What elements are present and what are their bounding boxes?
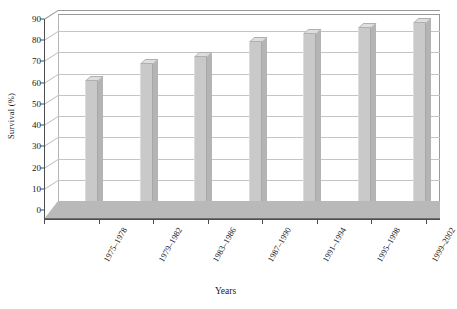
x-axis-tick-label: 1979–1982 xyxy=(157,226,183,263)
bar-side-face xyxy=(426,19,431,210)
bar-front-face xyxy=(140,64,153,210)
y-axis-line xyxy=(44,19,45,219)
bar-front-face xyxy=(85,81,98,210)
x-axis-tick-label: 1991–1994 xyxy=(321,226,347,263)
gridline-connector xyxy=(44,116,59,126)
x-axis-tick-mark xyxy=(208,219,209,224)
gridline-connector xyxy=(44,74,59,84)
x-axis-tick-mark xyxy=(99,219,100,224)
bar-front-face xyxy=(358,28,371,211)
bar-side-face xyxy=(98,76,103,210)
plot-floor xyxy=(44,201,440,219)
gridline-connector xyxy=(44,180,59,190)
bar-front-face xyxy=(413,23,426,210)
bar xyxy=(413,23,426,210)
x-axis-tick-marks xyxy=(44,219,440,225)
plot-area xyxy=(44,14,440,219)
bar xyxy=(358,28,371,211)
x-axis-tick-mark xyxy=(371,219,372,224)
x-axis-tick-label: 1983–1986 xyxy=(212,226,238,263)
gridline-connector xyxy=(44,137,59,147)
bar-side-face xyxy=(262,38,267,210)
gridline-connector xyxy=(44,95,59,105)
gridline-connector xyxy=(44,31,59,41)
bar-front-face xyxy=(249,42,262,210)
bar-front-face xyxy=(303,34,316,210)
x-axis-tick-label: 1999–2002 xyxy=(430,226,456,263)
bar xyxy=(194,57,207,210)
gridline-connector xyxy=(44,159,59,169)
y-axis-tick-labels: 0102030405060708090 xyxy=(22,14,44,219)
x-axis-tick-label: 1975–1978 xyxy=(102,226,128,263)
bar xyxy=(140,64,153,210)
x-axis-tick-labels: 1975–19781979–19821983–19861987–19901991… xyxy=(44,226,440,282)
gridline xyxy=(58,31,440,32)
x-axis-tick-mark xyxy=(317,219,318,224)
bar-side-face xyxy=(316,29,321,210)
x-axis-tick-label: 1987–1990 xyxy=(266,226,292,263)
x-axis-tick-mark xyxy=(426,219,427,224)
bar xyxy=(85,81,98,210)
x-axis-tick-mark xyxy=(262,219,263,224)
x-axis-title: Years xyxy=(0,286,451,296)
bar xyxy=(303,34,316,210)
bar-side-face xyxy=(207,53,212,210)
x-axis-tick-mark xyxy=(44,219,45,224)
bar xyxy=(249,42,262,210)
x-axis-tick-label: 1995–1998 xyxy=(375,226,401,263)
y-axis-title-text: Survival (%) xyxy=(6,93,16,139)
gridline-connector xyxy=(44,10,59,20)
gridline-connector xyxy=(44,53,59,63)
plot-floor-top xyxy=(44,201,440,219)
bar-front-face xyxy=(194,57,207,210)
y-axis-title: Survival (%) xyxy=(0,0,22,232)
gridline xyxy=(58,10,440,11)
x-axis-tick-mark xyxy=(153,219,154,224)
bar-side-face xyxy=(153,59,158,210)
bar-side-face xyxy=(371,23,376,210)
